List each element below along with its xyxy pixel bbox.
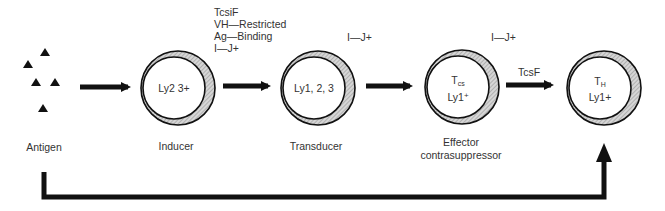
helper-sub: H xyxy=(601,81,606,88)
effector-sub: cs xyxy=(458,80,465,87)
factor-line: Ag—Binding xyxy=(214,30,286,42)
transducer-above-label: I—J+ xyxy=(347,31,372,43)
factor-line: TcsiF xyxy=(214,6,286,18)
inducer-cell-text: Ly2 3+ xyxy=(158,82,189,94)
effector-line2: Ly1 xyxy=(447,91,464,103)
feedback-path xyxy=(44,156,604,197)
effector-label-line2: contrasuppressor xyxy=(420,149,501,162)
effector-above-label: I—J+ xyxy=(491,31,516,43)
effector-label-line1: Effector xyxy=(420,136,501,149)
transducer-cell-text: Ly1, 2, 3 xyxy=(294,82,334,94)
effector-sup: + xyxy=(464,91,469,100)
antigen-label: Antigen xyxy=(26,141,62,153)
factor-line: I—J+ xyxy=(214,42,286,54)
tcsf-label: TcsF xyxy=(518,66,540,78)
inducer-label: Inducer xyxy=(158,140,193,152)
effector-label: Effector contrasuppressor xyxy=(420,136,501,162)
factor-line: VH—Restricted xyxy=(214,18,286,30)
transducer-label: Transducer xyxy=(290,140,343,152)
antigen-triangles xyxy=(23,48,60,112)
helper-line2: Ly1+ xyxy=(589,91,612,103)
diagram-graphics xyxy=(0,0,665,211)
feedback-arrowhead xyxy=(596,143,612,162)
factor-block: TcsiF VH—Restricted Ag—Binding I—J+ xyxy=(214,6,286,54)
effector-cell-text: Tcs Ly1+ xyxy=(447,74,468,103)
helper-cell-text: TH Ly1+ xyxy=(589,75,612,103)
